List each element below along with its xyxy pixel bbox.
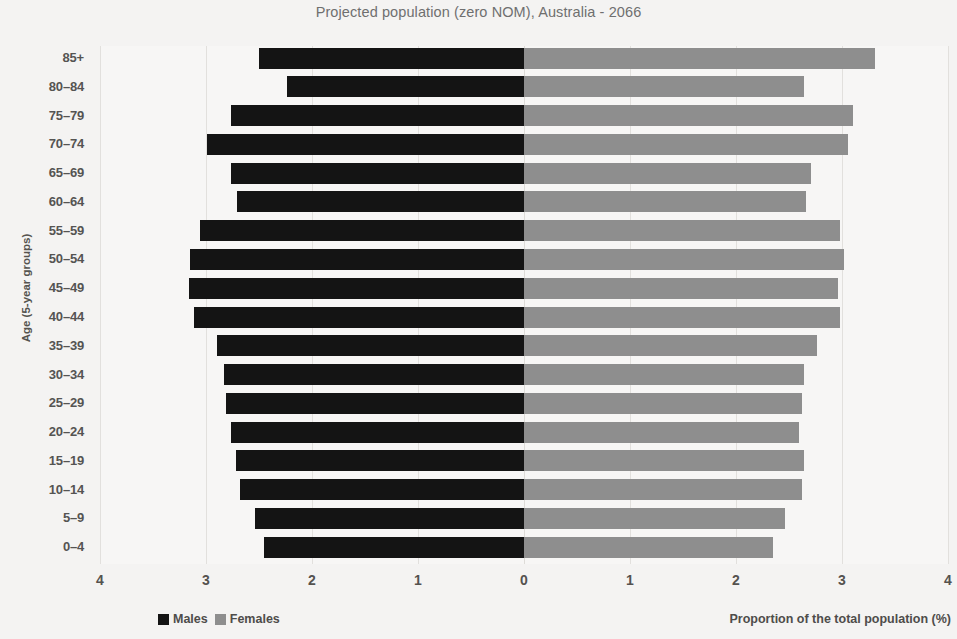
bar-males — [207, 134, 524, 155]
bar-males — [226, 393, 524, 414]
bar-males — [194, 307, 524, 328]
bar-row — [100, 46, 948, 70]
x-axis-label: 2 — [716, 572, 756, 588]
y-axis-label: 60–64 — [49, 190, 84, 214]
y-axis-label: 50–54 — [49, 247, 84, 271]
bar-row — [100, 75, 948, 99]
legend-item: Females — [215, 612, 280, 626]
y-axis-label: 85+ — [63, 46, 84, 70]
bar-row — [100, 449, 948, 473]
bar-row — [100, 506, 948, 530]
bar-row — [100, 161, 948, 185]
bar-males — [231, 105, 524, 126]
bar-females — [524, 307, 840, 328]
bar-males — [264, 537, 524, 558]
bar-females — [524, 335, 817, 356]
y-axis-label: 35–39 — [49, 334, 84, 358]
gridline-4 — [948, 46, 949, 564]
y-axis-label: 15–19 — [49, 449, 84, 473]
bar-males — [287, 76, 524, 97]
bar-row — [100, 190, 948, 214]
y-axis-label: 40–44 — [49, 305, 84, 329]
population-pyramid-chart: Projected population (zero NOM), Austral… — [0, 0, 957, 639]
y-axis-label: 45–49 — [49, 276, 84, 300]
bar-females — [524, 508, 785, 529]
bar-females — [524, 249, 844, 270]
y-axis-tick-labels: 85+80–8475–7970–7465–6960–6455–5950–5445… — [0, 46, 92, 564]
y-axis-label: 80–84 — [49, 75, 84, 99]
y-axis-label: 5–9 — [63, 506, 84, 530]
bar-males — [240, 479, 524, 500]
bar-row — [100, 104, 948, 128]
x-axis-label: 0 — [504, 572, 544, 588]
legend-label: Females — [230, 612, 280, 626]
bar-row — [100, 535, 948, 559]
y-axis-label: 10–14 — [49, 478, 84, 502]
bar-row — [100, 219, 948, 243]
bar-rows — [100, 46, 948, 564]
bar-males — [236, 450, 524, 471]
bar-females — [524, 393, 802, 414]
y-axis-label: 75–79 — [49, 104, 84, 128]
bar-females — [524, 537, 773, 558]
chart-legend: MalesFemales — [158, 612, 280, 626]
x-axis-label: 1 — [610, 572, 650, 588]
bar-row — [100, 305, 948, 329]
bar-females — [524, 422, 799, 443]
x-axis-label: 3 — [822, 572, 862, 588]
bar-males — [224, 364, 524, 385]
bar-row — [100, 391, 948, 415]
chart-title: Projected population (zero NOM), Austral… — [0, 4, 957, 20]
x-axis-label: 1 — [398, 572, 438, 588]
x-axis-label: 2 — [292, 572, 332, 588]
bar-males — [259, 48, 524, 69]
y-axis-label: 0–4 — [63, 535, 84, 559]
bar-females — [524, 220, 840, 241]
bar-males — [200, 220, 524, 241]
y-axis-label: 65–69 — [49, 161, 84, 185]
bar-males — [190, 249, 524, 270]
x-axis-label: 3 — [186, 572, 226, 588]
bar-males — [231, 163, 524, 184]
bar-males — [255, 508, 524, 529]
bar-row — [100, 247, 948, 271]
y-axis-label: 55–59 — [49, 219, 84, 243]
bar-females — [524, 191, 806, 212]
bar-females — [524, 105, 853, 126]
bar-males — [217, 335, 524, 356]
bar-row — [100, 334, 948, 358]
legend-item: Males — [158, 612, 208, 626]
legend-swatch-icon — [158, 614, 169, 625]
bar-males — [237, 191, 524, 212]
legend-label: Males — [173, 612, 208, 626]
x-axis-title: Proportion of the total population (%) — [730, 612, 952, 626]
x-axis-label: 4 — [928, 572, 957, 588]
bar-females — [524, 450, 804, 471]
bar-row — [100, 363, 948, 387]
x-axis-label: 4 — [80, 572, 120, 588]
bar-row — [100, 276, 948, 300]
x-axis-tick-labels: 432101234 — [0, 572, 957, 596]
bar-females — [524, 479, 802, 500]
bar-males — [231, 422, 524, 443]
bar-females — [524, 278, 838, 299]
bar-females — [524, 163, 811, 184]
bar-row — [100, 478, 948, 502]
legend-swatch-icon — [215, 614, 226, 625]
y-axis-label: 25–29 — [49, 391, 84, 415]
bar-females — [524, 134, 848, 155]
y-axis-label: 70–74 — [49, 132, 84, 156]
bar-males — [189, 278, 524, 299]
bar-females — [524, 76, 804, 97]
y-axis-label: 30–34 — [49, 363, 84, 387]
bar-females — [524, 364, 804, 385]
plot-area — [100, 46, 948, 564]
bar-row — [100, 420, 948, 444]
bar-row — [100, 132, 948, 156]
bar-females — [524, 48, 875, 69]
y-axis-label: 20–24 — [49, 420, 84, 444]
